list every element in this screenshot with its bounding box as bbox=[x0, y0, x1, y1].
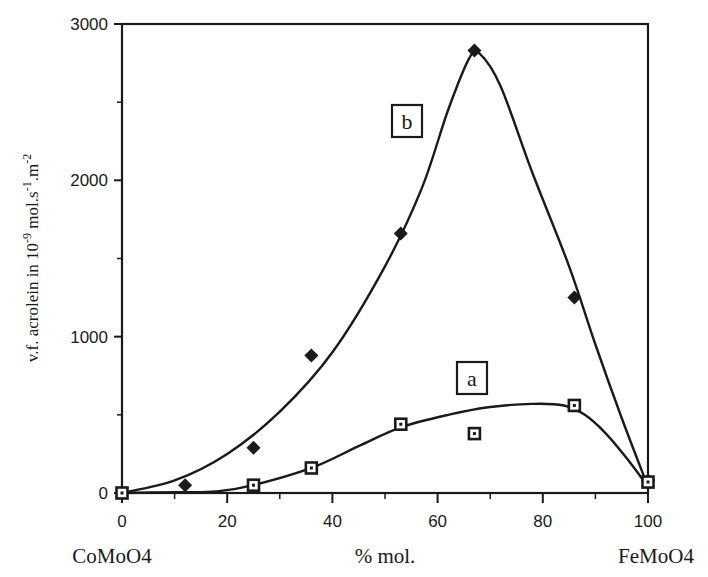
fit-curves bbox=[122, 51, 648, 493]
chart: 0100020003000 020406080100 ba v.f. acrol… bbox=[0, 0, 708, 577]
x-tick-label: 20 bbox=[218, 512, 237, 531]
square-marker-dot bbox=[573, 404, 576, 407]
y-label-text: mol.s bbox=[23, 191, 42, 233]
x-tick-label: 40 bbox=[323, 512, 342, 531]
x-tick-label: 0 bbox=[117, 512, 126, 531]
fit-curve-a bbox=[122, 404, 648, 493]
square-marker-dot bbox=[310, 466, 313, 469]
y-tick-label: 0 bbox=[99, 484, 108, 503]
diamond-marker-b bbox=[247, 441, 261, 455]
data-points bbox=[115, 44, 655, 500]
square-marker-dot bbox=[399, 423, 402, 426]
y-label-text: .m bbox=[23, 164, 42, 181]
y-label-exponent: -2 bbox=[20, 154, 34, 164]
x-axis-label: % mol. bbox=[355, 544, 416, 568]
right-compound-label: FeMoO4 bbox=[618, 544, 694, 568]
square-marker-dot bbox=[252, 484, 255, 487]
plot-frame bbox=[122, 24, 648, 493]
square-marker-dot bbox=[647, 481, 650, 484]
square-marker-dot bbox=[121, 492, 124, 495]
diamond-marker-b bbox=[394, 226, 408, 240]
y-tick-label: 1000 bbox=[70, 328, 108, 347]
fit-curve-b bbox=[122, 51, 648, 493]
diamond-marker-b bbox=[304, 348, 318, 362]
plot-border bbox=[122, 24, 648, 493]
y-axis: 0100020003000 bbox=[70, 15, 122, 503]
y-tick-label: 3000 bbox=[70, 15, 108, 34]
x-tick-label: 60 bbox=[428, 512, 447, 531]
x-tick-label: 80 bbox=[533, 512, 552, 531]
y-label-text: v.f. acrolein in 10 bbox=[23, 243, 42, 362]
diamond-marker-b bbox=[178, 478, 192, 492]
left-compound-label: CoMoO4 bbox=[72, 544, 152, 568]
series-labels: ba bbox=[392, 105, 487, 394]
square-marker-dot bbox=[473, 432, 476, 435]
y-axis-label: v.f. acrolein in 10-9 mol.s-1.m-2 bbox=[20, 154, 42, 362]
y-label-exponent: -9 bbox=[20, 233, 34, 243]
series-label-b: b bbox=[402, 109, 413, 134]
x-axis: 020406080100 bbox=[117, 493, 662, 531]
y-label-exponent: -1 bbox=[20, 181, 34, 191]
y-tick-label: 2000 bbox=[70, 171, 108, 190]
x-tick-label: 100 bbox=[634, 512, 662, 531]
series-label-a: a bbox=[467, 366, 477, 391]
